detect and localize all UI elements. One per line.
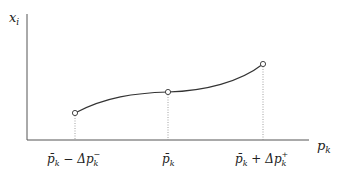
diagram-canvas: xi pk p̄k − Δpk− p̄k p̄k + Δpk+ [0,0,343,176]
data-point-middle [165,89,170,94]
tick-label-middle: p̄k [162,152,175,168]
tick-label-left: p̄k − Δpk− [47,150,100,168]
response-curve [75,64,263,113]
data-point-left [72,110,77,115]
tick-label-right: p̄k + Δpk+ [235,150,288,168]
y-axis-label: xi [9,10,19,27]
x-axis-label: pk [317,138,331,155]
data-point-right [260,61,265,66]
